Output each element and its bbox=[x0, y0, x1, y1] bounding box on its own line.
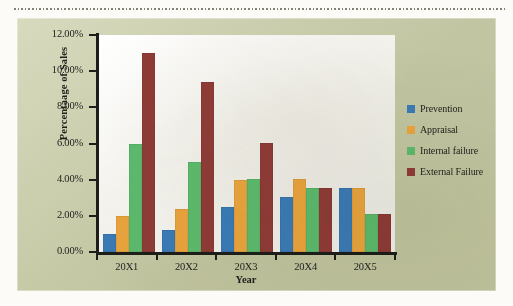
bar bbox=[280, 197, 293, 252]
x-axis-tick-label: 20X2 bbox=[156, 261, 216, 272]
x-axis-title: Year bbox=[97, 274, 395, 285]
x-axis-line bbox=[96, 252, 397, 255]
x-axis-tick bbox=[394, 254, 396, 260]
x-axis-tick-label: 20X3 bbox=[216, 261, 276, 272]
legend-label: Prevention bbox=[420, 103, 462, 114]
y-axis-tick-label: 8.00% bbox=[17, 100, 83, 111]
legend-item: Appraisal bbox=[407, 119, 493, 140]
bar bbox=[339, 188, 352, 252]
y-axis-tick bbox=[89, 70, 96, 72]
bar-group bbox=[217, 35, 276, 252]
legend-label: Appraisal bbox=[420, 124, 458, 135]
bar-groups bbox=[99, 35, 395, 252]
x-axis-tick bbox=[156, 254, 158, 260]
x-axis-tick bbox=[96, 254, 98, 260]
y-axis-tick-label: 10.00% bbox=[17, 64, 83, 75]
bar bbox=[352, 188, 365, 252]
bar-group bbox=[99, 35, 158, 252]
y-axis-tick bbox=[89, 106, 96, 108]
y-axis-tick bbox=[89, 251, 96, 253]
x-axis-tick bbox=[275, 254, 277, 260]
legend-item: Internal failure bbox=[407, 140, 493, 161]
legend-label: External Failure bbox=[420, 166, 483, 177]
legend-item: External Failure bbox=[407, 161, 493, 182]
bar bbox=[247, 179, 260, 252]
bar-group bbox=[336, 35, 395, 252]
y-axis-tick-label: 0.00% bbox=[17, 245, 83, 256]
x-axis-tick-label: 20X1 bbox=[97, 261, 157, 272]
bar bbox=[142, 53, 155, 252]
bar bbox=[129, 144, 142, 253]
bar bbox=[260, 143, 273, 252]
bar-group bbox=[277, 35, 336, 252]
x-axis-tick-label: 20X5 bbox=[335, 261, 395, 272]
bar bbox=[221, 207, 234, 252]
y-axis-title: Percentaage of Sales bbox=[58, 24, 69, 164]
chart-panel: 0.00%2.00%4.00%6.00%8.00%10.00%12.00% Pe… bbox=[17, 18, 496, 291]
y-axis-tick bbox=[89, 215, 96, 217]
y-axis-tick-label: 6.00% bbox=[17, 137, 83, 148]
y-axis-tick bbox=[89, 34, 96, 36]
page-top-dotted-rule bbox=[14, 8, 506, 10]
bar bbox=[293, 179, 306, 252]
legend-swatch-icon bbox=[407, 126, 415, 134]
legend-swatch-icon bbox=[407, 105, 415, 113]
y-axis-tick bbox=[89, 179, 96, 181]
bar bbox=[103, 234, 116, 252]
scanned-page: 0.00%2.00%4.00%6.00%8.00%10.00%12.00% Pe… bbox=[0, 0, 513, 306]
bar bbox=[378, 214, 391, 252]
bar bbox=[365, 214, 378, 252]
legend-swatch-icon bbox=[407, 168, 415, 176]
x-axis-tick bbox=[215, 254, 217, 260]
bar bbox=[188, 162, 201, 252]
y-axis-tick-label: 2.00% bbox=[17, 209, 83, 220]
y-axis-tick-label: 4.00% bbox=[17, 173, 83, 184]
bar bbox=[306, 188, 319, 252]
legend-label: Internal failure bbox=[420, 145, 478, 156]
y-axis-tick-label: 12.00% bbox=[17, 28, 83, 39]
bar bbox=[175, 209, 188, 252]
bar bbox=[162, 230, 175, 252]
x-axis-tick bbox=[334, 254, 336, 260]
y-axis-tick bbox=[89, 143, 96, 145]
legend-item: Prevention bbox=[407, 98, 493, 119]
bar bbox=[319, 188, 332, 252]
bar bbox=[116, 216, 129, 252]
legend-swatch-icon bbox=[407, 147, 415, 155]
bar bbox=[234, 180, 247, 252]
bar bbox=[201, 82, 214, 252]
chart-legend: PreventionAppraisalInternal failureExter… bbox=[407, 98, 493, 182]
x-axis-tick-label: 20X4 bbox=[276, 261, 336, 272]
bar-group bbox=[158, 35, 217, 252]
